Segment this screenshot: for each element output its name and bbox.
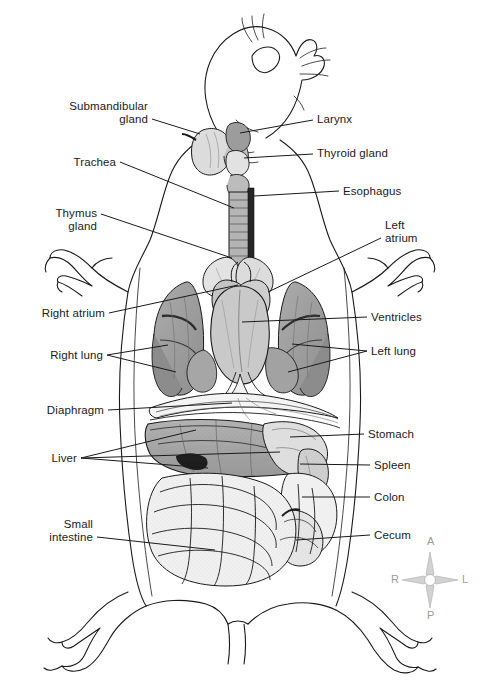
label-ventricles: Ventricles xyxy=(371,311,422,324)
label-trachea: Trachea xyxy=(74,156,116,169)
label-diaphragm: Diaphragm xyxy=(47,404,104,417)
leader-esophagus xyxy=(254,191,339,196)
leader-thymus-gland xyxy=(101,214,232,258)
label-right-lung: Right lung xyxy=(50,349,103,362)
compass-label-right: R xyxy=(391,574,399,585)
label-submandibular-gland: Submandibular gland xyxy=(69,100,148,126)
orientation-compass xyxy=(402,552,458,608)
label-thyroid-gland: Thyroid gland xyxy=(317,147,388,160)
leader-thyroid-gland xyxy=(244,154,313,158)
compass-hub xyxy=(425,575,436,586)
leader-left-atrium xyxy=(268,238,381,292)
label-colon: Colon xyxy=(374,491,405,504)
leader-submandibular-gland xyxy=(152,119,200,134)
label-liver: Liver xyxy=(52,452,77,465)
label-thymus-gland: Thymus gland xyxy=(56,207,98,233)
label-left-atrium: Left atrium xyxy=(385,219,418,245)
anatomy-figure: Submandibular glandTracheaThymus glandRi… xyxy=(0,0,483,697)
compass-label-anterior: A xyxy=(427,536,434,547)
ventricles-shape xyxy=(211,286,270,384)
label-cecum: Cecum xyxy=(374,529,411,542)
compass-label-posterior: P xyxy=(427,610,434,621)
label-left-lung: Left lung xyxy=(371,345,416,358)
label-stomach: Stomach xyxy=(368,428,414,441)
label-esophagus: Esophagus xyxy=(343,185,401,198)
larynx-thyroid-shape xyxy=(226,122,250,196)
label-spleen: Spleen xyxy=(374,459,410,472)
label-right-atrium: Right atrium xyxy=(42,307,105,320)
label-small-intestine: Small intestine xyxy=(49,518,93,544)
compass-label-left: L xyxy=(462,574,468,585)
label-larynx: Larynx xyxy=(317,113,352,126)
